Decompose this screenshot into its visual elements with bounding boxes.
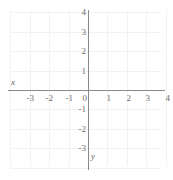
x-tick-label: 3 bbox=[146, 94, 151, 103]
gridline-horizontal bbox=[10, 168, 161, 169]
x-axis-label: x bbox=[11, 78, 15, 87]
gridline-vertical bbox=[146, 10, 147, 166]
y-tick-label: 4 bbox=[82, 8, 87, 17]
y-tick-label: -1 bbox=[79, 105, 87, 114]
x-tick-label: 0 bbox=[83, 94, 88, 103]
gridline-vertical bbox=[107, 10, 108, 166]
y-tick-label: -3 bbox=[79, 144, 87, 153]
y-tick-label: -2 bbox=[79, 125, 87, 134]
y-axis-line bbox=[88, 10, 89, 170]
y-axis-label: y bbox=[91, 152, 95, 161]
y-tick-label: 3 bbox=[82, 28, 87, 37]
x-tick-label: 4 bbox=[166, 94, 171, 103]
coordinate-plane: -3-2-1012344321-1-2-3 x y bbox=[0, 0, 173, 180]
x-tick-label: -3 bbox=[27, 94, 35, 103]
gridline-vertical bbox=[69, 10, 70, 166]
gridline-vertical bbox=[30, 10, 31, 166]
y-tick-label: 2 bbox=[82, 47, 87, 56]
gridline-vertical bbox=[49, 10, 50, 166]
x-tick-label: -2 bbox=[46, 94, 54, 103]
gridline-vertical bbox=[166, 10, 167, 166]
gridline-vertical bbox=[10, 10, 11, 166]
x-axis-line bbox=[8, 90, 165, 91]
y-tick-label: 1 bbox=[82, 67, 87, 76]
x-tick-label: 2 bbox=[127, 94, 132, 103]
x-tick-label: 1 bbox=[107, 94, 112, 103]
gridline-vertical bbox=[127, 10, 128, 166]
x-tick-label: -1 bbox=[66, 94, 74, 103]
